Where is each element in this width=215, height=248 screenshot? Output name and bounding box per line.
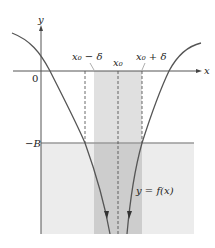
neg-B-label: −B (25, 138, 41, 149)
x0-minus-delta-label: x₀ − δ (72, 51, 102, 62)
x-axis-arrow-icon (196, 69, 202, 73)
y-axis-arrow-icon (39, 25, 43, 31)
x0-minus-delta-leader (90, 63, 94, 70)
x0-plus-delta-leader (142, 63, 145, 70)
origin-label: 0 (32, 73, 38, 84)
x0-label: x₀ (113, 57, 123, 68)
x0-plus-delta-label: x₀ + δ (136, 51, 166, 62)
limit-diagram: y x 0 x₀ − δ x₀ x₀ + δ −B y = f(x) (0, 0, 215, 248)
y-axis-label: y (37, 14, 44, 25)
function-label: y = f(x) (135, 185, 174, 196)
x-axis-label: x (204, 65, 210, 76)
